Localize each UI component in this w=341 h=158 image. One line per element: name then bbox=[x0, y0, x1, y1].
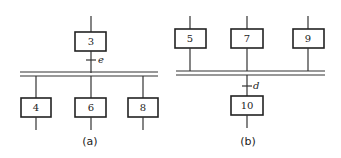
step-3-label: 3 bbox=[88, 36, 94, 47]
step-7-label: 7 bbox=[244, 33, 250, 44]
diagram-b: 5 7 9 d 10 (b) bbox=[175, 16, 325, 148]
diagram-a: 3 e 4 6 8 (a) bbox=[20, 16, 158, 148]
grafcet-diagrams: 3 e 4 6 8 (a) 5 7 9 d bbox=[0, 0, 341, 158]
step-10-label: 10 bbox=[241, 100, 254, 111]
step-4-label: 4 bbox=[33, 102, 39, 113]
transition-e-label: e bbox=[98, 54, 104, 65]
step-9-label: 9 bbox=[305, 33, 311, 44]
step-5-label: 5 bbox=[187, 33, 193, 44]
transition-d-label: d bbox=[253, 80, 259, 91]
step-8-label: 8 bbox=[140, 102, 146, 113]
caption-b: (b) bbox=[240, 135, 256, 148]
caption-a: (a) bbox=[82, 135, 97, 148]
step-6-label: 6 bbox=[88, 102, 94, 113]
